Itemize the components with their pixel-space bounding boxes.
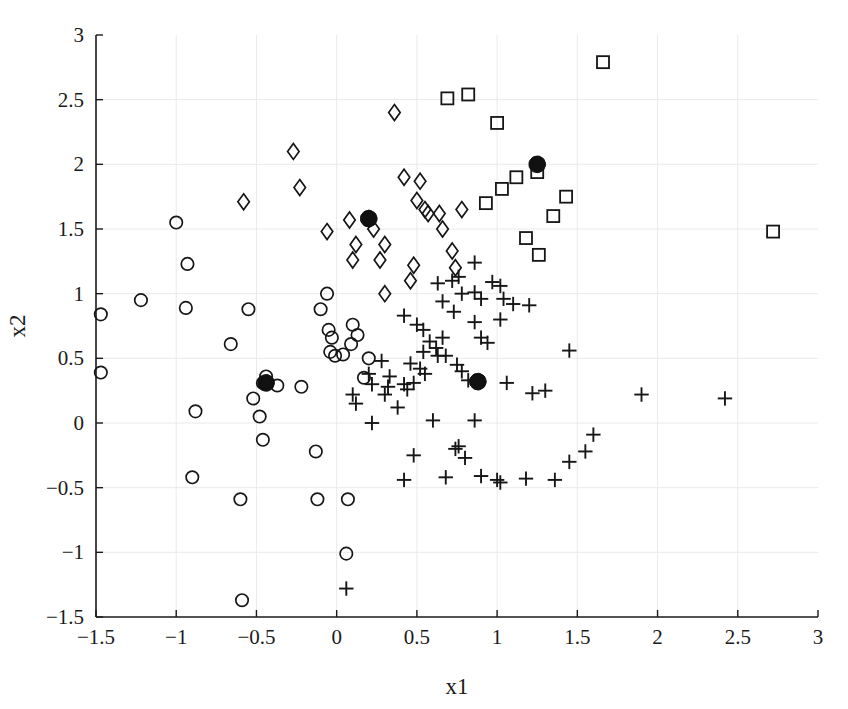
- x-tick-label: −0.5: [237, 625, 275, 649]
- marker-diamond: [238, 194, 250, 210]
- marker-centroid: [470, 373, 487, 390]
- marker-diamond: [389, 105, 401, 121]
- x-tick-label: 1.5: [564, 625, 590, 649]
- marker-circle: [186, 471, 198, 483]
- marker-circle: [180, 302, 192, 314]
- x-tick-label: 2: [652, 625, 663, 649]
- y-tick-label: −0.5: [46, 476, 84, 500]
- y-tick-label: 1: [74, 282, 85, 306]
- marker-circle: [247, 392, 259, 404]
- marker-plus: [538, 383, 552, 397]
- marker-diamond: [344, 212, 356, 228]
- marker-plus: [474, 469, 488, 483]
- marker-square: [547, 210, 559, 222]
- marker-plus: [435, 294, 449, 308]
- marker-plus: [381, 380, 395, 394]
- series-cluster-diamonds: [238, 105, 468, 302]
- marker-plus: [423, 334, 437, 348]
- x-tick-label: 3: [813, 625, 824, 649]
- marker-circle: [234, 493, 246, 505]
- marker-plus: [586, 427, 600, 441]
- marker-centroid: [258, 375, 275, 392]
- tick-marks: [96, 35, 818, 617]
- marker-plus: [490, 473, 504, 487]
- marker-circle: [311, 493, 323, 505]
- marker-square: [496, 183, 508, 195]
- marker-circle: [340, 547, 352, 559]
- marker-plus: [365, 416, 379, 430]
- marker-plus: [467, 285, 481, 299]
- marker-centroid: [529, 156, 546, 173]
- marker-circle: [326, 331, 338, 343]
- marker-diamond: [405, 273, 417, 289]
- y-tick-label: 0.5: [58, 346, 84, 370]
- marker-plus: [500, 376, 514, 390]
- marker-plus: [447, 305, 461, 319]
- marker-diamond: [347, 252, 359, 268]
- grid-lines: [96, 35, 818, 617]
- marker-square: [560, 191, 572, 203]
- marker-plus: [562, 455, 576, 469]
- marker-plus: [416, 345, 430, 359]
- marker-diamond: [350, 237, 362, 253]
- marker-plus: [519, 471, 533, 485]
- marker-plus: [525, 386, 539, 400]
- marker-square: [510, 171, 522, 183]
- marker-square: [480, 197, 492, 209]
- y-tick-label: −1.5: [46, 605, 84, 629]
- marker-diamond: [446, 243, 458, 259]
- marker-plus: [467, 255, 481, 269]
- marker-diamond: [398, 169, 410, 185]
- y-tick-label: 3: [74, 23, 85, 47]
- y-tick-label: 0: [74, 411, 85, 435]
- marker-plus: [390, 400, 404, 414]
- marker-circle: [314, 303, 326, 315]
- marker-circle: [342, 493, 354, 505]
- marker-diamond: [408, 257, 420, 273]
- y-tick-label: 2: [74, 152, 85, 176]
- x-tick-label: 0: [331, 625, 342, 649]
- x-tick-label: 1: [492, 625, 503, 649]
- y-axis-title: x2: [5, 315, 30, 338]
- marker-plus: [634, 387, 648, 401]
- marker-diamond: [414, 173, 426, 189]
- x-tick-label: 0.5: [404, 625, 430, 649]
- marker-plus: [349, 396, 363, 410]
- marker-square: [520, 232, 532, 244]
- marker-diamond: [288, 143, 300, 159]
- marker-diamond: [434, 205, 446, 221]
- marker-circle: [225, 338, 237, 350]
- marker-plus: [397, 473, 411, 487]
- marker-circle: [253, 410, 265, 422]
- marker-centroid: [361, 210, 378, 227]
- marker-plus: [406, 448, 420, 462]
- marker-diamond: [294, 180, 306, 196]
- marker-plus: [718, 391, 732, 405]
- marker-plus: [362, 367, 376, 381]
- marker-circle: [351, 329, 363, 341]
- marker-circle: [135, 294, 147, 306]
- marker-circle: [322, 324, 334, 336]
- marker-circle: [310, 445, 322, 457]
- marker-circle: [189, 405, 201, 417]
- plot-canvas: −1.5−1−0.500.511.522.53−1.5−1−0.500.511.…: [0, 0, 848, 709]
- marker-plus: [451, 439, 465, 453]
- marker-diamond: [321, 224, 333, 240]
- marker-plus: [406, 376, 420, 390]
- marker-plus: [435, 330, 449, 344]
- marker-circle: [295, 381, 307, 393]
- x-tick-label: 2.5: [725, 625, 751, 649]
- marker-plus: [458, 451, 472, 465]
- marker-diamond: [374, 252, 386, 268]
- x-axis-title: x1: [446, 674, 469, 699]
- marker-plus: [339, 581, 353, 595]
- marker-plus: [448, 442, 462, 456]
- marker-diamond: [379, 237, 391, 253]
- series-cluster-squares: [441, 56, 779, 261]
- marker-diamond: [456, 202, 468, 218]
- marker-plus: [522, 298, 536, 312]
- marker-plus: [439, 470, 453, 484]
- marker-plus: [382, 369, 396, 383]
- marker-plus: [378, 387, 392, 401]
- marker-circle: [337, 348, 349, 360]
